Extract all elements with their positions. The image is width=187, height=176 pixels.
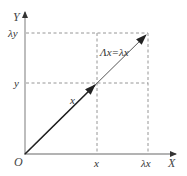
- original-vector: [25, 85, 95, 154]
- eigenvector-diagram: Y X O λy y x λx x Λx=λx: [0, 0, 187, 176]
- x-axis-label: X: [167, 156, 176, 170]
- x-tick-label: x: [93, 157, 99, 169]
- lambda-y-tick-label: λy: [7, 27, 18, 39]
- transformed-vector-label: Λx=λx: [99, 46, 129, 58]
- y-tick-label: y: [13, 77, 19, 89]
- lambda-x-tick-label: λx: [140, 157, 151, 169]
- y-axis-label: Y: [13, 10, 21, 24]
- origin-label: O: [14, 155, 23, 169]
- original-vector-label: x: [69, 94, 75, 106]
